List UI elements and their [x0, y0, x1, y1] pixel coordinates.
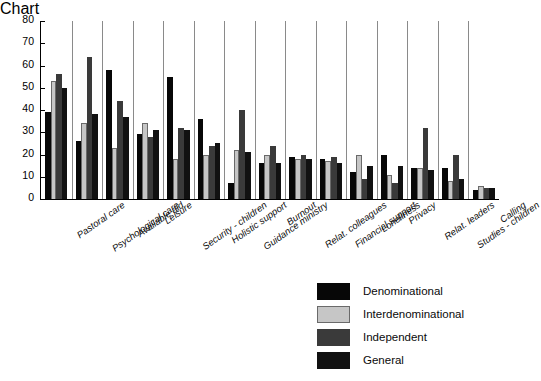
bar — [62, 88, 68, 199]
legend-item: Denominational — [317, 281, 517, 302]
group-separator — [72, 21, 73, 199]
bar — [92, 114, 98, 199]
group-separator — [346, 21, 347, 199]
group-separator — [224, 21, 225, 199]
y-tick-label: 10 — [22, 170, 34, 181]
group-separator — [102, 21, 103, 199]
bar — [398, 166, 404, 199]
bar — [245, 152, 251, 199]
bar — [276, 163, 282, 199]
y-tick-label: 60 — [22, 59, 34, 70]
bar — [123, 117, 129, 199]
bar — [459, 179, 465, 199]
y-tick-label: 50 — [22, 81, 34, 92]
y-tick-label: 20 — [22, 148, 34, 159]
bar — [306, 159, 312, 199]
y-tick-label: 40 — [22, 103, 34, 114]
bar — [184, 130, 190, 199]
y-tick-label: 80 — [22, 14, 34, 25]
legend-item: General — [317, 350, 517, 371]
group-separator — [133, 21, 134, 199]
bar — [489, 188, 495, 199]
bar — [153, 130, 159, 199]
bar — [367, 166, 373, 199]
legend-swatch — [317, 306, 350, 323]
legend-label: General — [363, 354, 404, 367]
legend-item: Interdenominational — [317, 304, 517, 325]
bar — [337, 163, 343, 199]
legend-swatch — [317, 352, 350, 369]
bar — [215, 143, 221, 199]
y-tick-label: 30 — [22, 125, 34, 136]
group-separator — [468, 21, 469, 199]
group-separator — [194, 21, 195, 199]
group-separator — [255, 21, 256, 199]
chart-legend: DenominationalInterdenominationalIndepen… — [317, 281, 517, 373]
y-tick-label: 70 — [22, 36, 34, 47]
legend-label: Denominational — [363, 285, 443, 298]
group-separator — [407, 21, 408, 199]
legend-swatch — [317, 283, 350, 300]
group-separator — [438, 21, 439, 199]
x-axis-label: Pastoral care — [75, 200, 127, 240]
legend-label: Independent — [363, 331, 427, 344]
group-separator — [163, 21, 164, 199]
legend-swatch — [317, 329, 350, 346]
group-separator — [316, 21, 317, 199]
legend-item: Independent — [317, 327, 517, 348]
x-axis-labels: Pastoral carePsychological careAvailable… — [0, 200, 523, 270]
group-separator — [285, 21, 286, 199]
legend-label: Interdenominational — [363, 308, 464, 321]
plot-area — [41, 21, 499, 199]
group-separator — [377, 21, 378, 199]
bar — [428, 170, 434, 199]
